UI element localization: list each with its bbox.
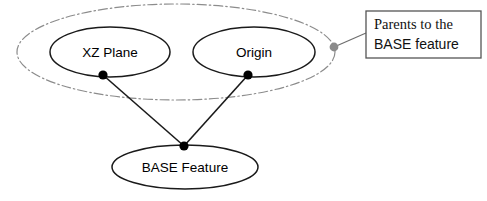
connector-xz-plane-to-base bbox=[103, 75, 184, 146]
parents-callout: Parents to the BASE feature bbox=[366, 11, 481, 58]
callout-line-2: BASE feature bbox=[374, 36, 459, 52]
callout-leader-line bbox=[334, 33, 366, 47]
port-dot-origin[interactable] bbox=[243, 70, 252, 79]
port-dot-base-feature[interactable] bbox=[179, 141, 188, 150]
node-base-feature[interactable]: BASE Feature bbox=[112, 145, 258, 189]
callout-line-1: Parents to the bbox=[374, 16, 453, 32]
node-xz-plane[interactable]: XZ Plane bbox=[50, 27, 170, 77]
connector-origin-to-base bbox=[184, 75, 248, 146]
diagram-svg: XZ Plane Origin BASE Feature Parents to … bbox=[0, 0, 487, 201]
callout-anchor-dot bbox=[330, 43, 339, 52]
node-base-feature-label: BASE Feature bbox=[142, 160, 228, 175]
node-xz-plane-label: XZ Plane bbox=[82, 45, 138, 60]
node-origin-label: Origin bbox=[236, 45, 272, 60]
port-dot-xz-plane[interactable] bbox=[98, 70, 107, 79]
node-origin[interactable]: Origin bbox=[193, 27, 315, 77]
diagram-canvas: XZ Plane Origin BASE Feature Parents to … bbox=[0, 0, 487, 201]
